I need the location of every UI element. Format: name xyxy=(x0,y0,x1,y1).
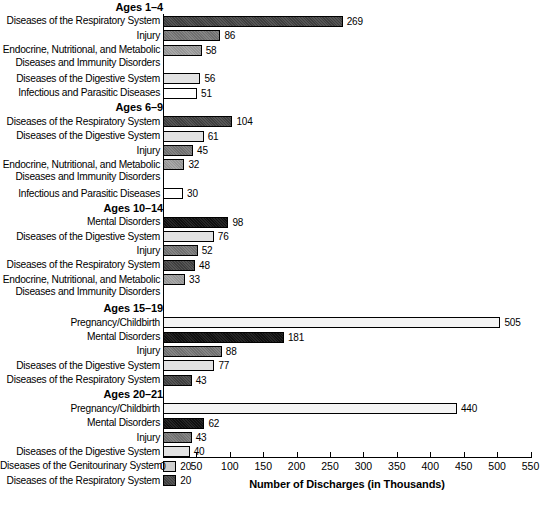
bar-value-label: 269 xyxy=(347,16,363,28)
bar xyxy=(163,145,193,156)
category-label: Endocrine, Nutritional, and Metabolic xyxy=(0,159,160,171)
category-label: Infectious and Parasitic Diseases xyxy=(0,87,160,99)
category-label: Diseases of the Respiratory System xyxy=(0,116,160,128)
category-label: Diseases of the Digestive System xyxy=(0,446,160,458)
bar-value-label: 61 xyxy=(208,131,219,143)
bar xyxy=(163,131,204,142)
bar xyxy=(163,16,343,27)
bar xyxy=(163,231,214,242)
group-title: Ages 10–14 xyxy=(0,202,163,215)
bar-value-label: 505 xyxy=(504,317,520,329)
category-label: Mental Disorders xyxy=(0,331,160,343)
bar xyxy=(163,159,184,170)
category-label: Endocrine, Nutritional, and Metabolic xyxy=(0,274,160,286)
x-tick xyxy=(363,452,364,458)
x-tick xyxy=(497,452,498,458)
bar-value-label: 58 xyxy=(206,45,217,57)
bar-value-label: 40 xyxy=(194,446,205,458)
bar xyxy=(163,217,228,228)
bar-value-label: 181 xyxy=(288,332,304,344)
category-label: Diseases and Immunity Disorders xyxy=(0,171,160,183)
x-tick xyxy=(196,452,197,458)
bar-value-label: 104 xyxy=(236,116,252,128)
group-title: Ages 15–19 xyxy=(0,302,163,315)
category-label: Pregnancy/Childbirth xyxy=(0,403,160,415)
category-label: Diseases and Immunity Disorders xyxy=(0,286,160,298)
bar xyxy=(163,260,195,271)
category-label: Injury xyxy=(0,145,160,157)
category-label: Diseases of the Genitourinary System xyxy=(0,460,160,472)
bar-value-label: 32 xyxy=(188,159,199,171)
bar xyxy=(163,274,185,285)
category-label: Diseases of the Digestive System xyxy=(0,231,160,243)
bar-value-label: 52 xyxy=(202,245,213,257)
group-title: Ages 6–9 xyxy=(0,101,163,114)
bar-value-label: 77 xyxy=(218,360,229,372)
bar xyxy=(163,418,204,429)
bar-value-label: 440 xyxy=(461,403,477,415)
category-label: Diseases of the Respiratory System xyxy=(0,475,160,487)
bar xyxy=(163,360,214,371)
bar-value-label: 86 xyxy=(224,30,235,42)
category-label: Mental Disorders xyxy=(0,216,160,228)
bar-value-label: 45 xyxy=(197,145,208,157)
x-tick xyxy=(263,452,264,458)
x-tick xyxy=(330,452,331,458)
category-label: Injury xyxy=(0,30,160,42)
bar-value-label: 98 xyxy=(232,217,243,229)
x-tick xyxy=(397,452,398,458)
bar xyxy=(163,446,190,457)
bar xyxy=(163,332,284,343)
category-label: Diseases of the Respiratory System xyxy=(0,374,160,386)
bar-value-label: 43 xyxy=(196,375,207,387)
category-label: Diseases of the Digestive System xyxy=(0,130,160,142)
bar-value-label: 88 xyxy=(226,346,237,358)
bar xyxy=(163,375,192,386)
category-label: Injury xyxy=(0,432,160,444)
x-tick-label: 550 xyxy=(511,460,551,473)
x-tick xyxy=(531,452,532,458)
bar xyxy=(163,346,222,357)
category-label: Endocrine, Nutritional, and Metabolic xyxy=(0,44,160,56)
category-label: Infectious and Parasitic Diseases xyxy=(0,188,160,200)
bar xyxy=(163,45,202,56)
bar-value-label: 76 xyxy=(218,231,229,243)
category-label: Pregnancy/Childbirth xyxy=(0,317,160,329)
x-tick xyxy=(163,452,164,458)
category-label: Injury xyxy=(0,245,160,257)
x-tick xyxy=(230,452,231,458)
value-axis-line xyxy=(163,457,531,458)
category-label: Injury xyxy=(0,345,160,357)
x-tick xyxy=(430,452,431,458)
group-title: Ages 20–21 xyxy=(0,388,163,401)
discharges-bar-chart: Ages 1–4Diseases of the Respiratory Syst… xyxy=(0,0,552,506)
bar-value-label: 43 xyxy=(196,432,207,444)
bar xyxy=(163,30,220,41)
category-label: Diseases of the Digestive System xyxy=(0,73,160,85)
category-label: Mental Disorders xyxy=(0,417,160,429)
category-label: Diseases of the Respiratory System xyxy=(0,15,160,27)
category-label: Diseases of the Respiratory System xyxy=(0,259,160,271)
bar xyxy=(163,245,198,256)
x-tick xyxy=(464,452,465,458)
bar xyxy=(163,88,197,99)
bar-value-label: 33 xyxy=(189,274,200,286)
bar xyxy=(163,432,192,443)
bar-value-label: 51 xyxy=(201,88,212,100)
bar xyxy=(163,317,500,328)
bar-value-label: 48 xyxy=(199,260,210,272)
bar xyxy=(163,188,183,199)
bar-value-label: 62 xyxy=(208,418,219,430)
bar-value-label: 30 xyxy=(187,188,198,200)
group-title: Ages 1–4 xyxy=(0,1,163,14)
category-label: Diseases and Immunity Disorders xyxy=(0,57,160,69)
bar xyxy=(163,403,457,414)
x-tick xyxy=(297,452,298,458)
x-axis-title: Number of Discharges (in Thousands) xyxy=(163,478,531,490)
bar-value-label: 56 xyxy=(204,73,215,85)
bar xyxy=(163,73,200,84)
bar xyxy=(163,116,232,127)
category-label: Diseases of the Digestive System xyxy=(0,360,160,372)
